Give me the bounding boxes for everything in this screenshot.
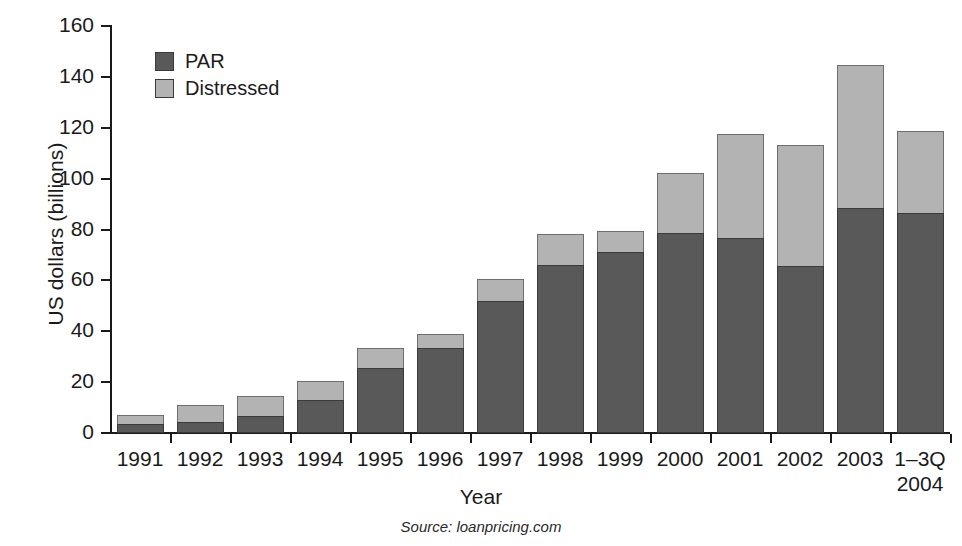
bar-segment-distressed[interactable]: [777, 145, 824, 267]
x-axis-title: Year: [0, 485, 962, 509]
y-tick-label: 40: [71, 318, 94, 342]
x-tick: [470, 434, 472, 443]
bar-stack[interactable]: [417, 334, 464, 432]
bar-segment-distressed[interactable]: [897, 131, 944, 214]
x-tick: [350, 434, 352, 443]
y-tick: 0: [101, 432, 110, 434]
y-axis-line: [110, 25, 112, 434]
x-tick: [710, 434, 712, 443]
y-tick: 100: [101, 178, 110, 180]
y-tick-label: 120: [59, 115, 94, 139]
legend-label-par: PAR: [185, 50, 225, 73]
source-label: Source:: [401, 518, 453, 535]
bar-segment-distressed[interactable]: [597, 231, 644, 254]
bar-segment-distressed[interactable]: [237, 396, 284, 418]
y-tick: 20: [101, 381, 110, 383]
y-tick-label: 140: [59, 64, 94, 88]
chart-figure: US dollars (billions) 020406080100120140…: [0, 0, 962, 546]
y-tick-label: 160: [59, 13, 94, 37]
bar-segment-distressed[interactable]: [177, 405, 224, 423]
bar-segment-par[interactable]: [897, 213, 944, 433]
legend-item-distressed: Distressed: [155, 75, 279, 102]
bar-segment-distressed[interactable]: [717, 134, 764, 240]
bar-stack[interactable]: [477, 279, 524, 432]
bar-segment-par[interactable]: [657, 233, 704, 433]
bar-segment-distressed[interactable]: [477, 279, 524, 302]
bar-segment-par[interactable]: [777, 266, 824, 433]
bar-segment-par[interactable]: [537, 265, 584, 433]
bar-stack[interactable]: [777, 145, 824, 432]
bar-segment-par[interactable]: [117, 424, 164, 433]
bar-segment-distressed[interactable]: [537, 234, 584, 266]
bar-segment-par[interactable]: [597, 252, 644, 433]
bar-stack[interactable]: [897, 131, 944, 432]
chart-legend: PAR Distressed: [155, 48, 279, 102]
bar-segment-par[interactable]: [477, 301, 524, 433]
y-tick-label: 60: [71, 267, 94, 291]
x-tick: [890, 434, 892, 443]
x-tick: [830, 434, 832, 443]
y-tick-label: 20: [71, 369, 94, 393]
bar-stack[interactable]: [717, 134, 764, 432]
bar-segment-distressed[interactable]: [417, 334, 464, 349]
bar-segment-par[interactable]: [417, 348, 464, 433]
legend-label-distressed: Distressed: [185, 77, 279, 100]
source-caption: Source: loanpricing.com: [0, 518, 962, 535]
bar-segment-par[interactable]: [837, 208, 884, 433]
y-tick: 160: [101, 25, 110, 27]
bar-segment-distressed[interactable]: [837, 65, 884, 209]
y-tick-label: 80: [71, 217, 94, 241]
x-tick: [770, 434, 772, 443]
bar-segment-par[interactable]: [177, 422, 224, 433]
bar-stack[interactable]: [297, 381, 344, 432]
x-tick: [590, 434, 592, 443]
y-tick-label: 0: [82, 420, 94, 444]
source-value: loanpricing.com: [456, 518, 561, 535]
bar-segment-par[interactable]: [297, 400, 344, 433]
x-tick: [410, 434, 412, 443]
x-tick: [290, 434, 292, 443]
x-tick: [230, 434, 232, 443]
y-tick: 60: [101, 279, 110, 281]
y-tick: 80: [101, 229, 110, 231]
bar-stack[interactable]: [597, 231, 644, 432]
bar-segment-par[interactable]: [717, 238, 764, 433]
bar-stack[interactable]: [117, 415, 164, 432]
bar-segment-par[interactable]: [237, 416, 284, 433]
y-tick-label: 100: [59, 166, 94, 190]
bar-stack[interactable]: [537, 234, 584, 432]
bar-segment-distressed[interactable]: [297, 381, 344, 401]
bar-segment-distressed[interactable]: [357, 348, 404, 370]
bar-segment-par[interactable]: [357, 368, 404, 433]
legend-item-par: PAR: [155, 48, 279, 75]
legend-swatch-par: [155, 52, 174, 71]
legend-swatch-distressed: [155, 79, 174, 98]
y-tick: 120: [101, 127, 110, 129]
y-tick: 140: [101, 76, 110, 78]
bar-stack[interactable]: [357, 348, 404, 432]
x-tick: [170, 434, 172, 443]
x-tick: [950, 434, 952, 443]
bar-stack[interactable]: [837, 65, 884, 432]
x-tick: [650, 434, 652, 443]
bar-stack[interactable]: [177, 405, 224, 432]
bar-stack[interactable]: [657, 173, 704, 432]
y-tick: 40: [101, 330, 110, 332]
x-tick: [530, 434, 532, 443]
bar-stack[interactable]: [237, 396, 284, 432]
bar-segment-distressed[interactable]: [657, 173, 704, 234]
